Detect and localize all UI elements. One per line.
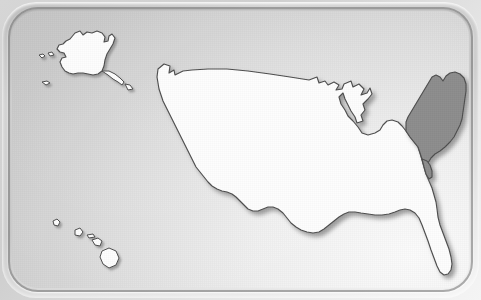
- plaque-inner-panel: [12, 11, 469, 288]
- hawaii-oahu[interactable]: [75, 228, 83, 236]
- hawaii-maui[interactable]: [92, 238, 102, 246]
- hawaii-kauai[interactable]: [53, 219, 60, 226]
- region-alaska[interactable]: [57, 31, 115, 75]
- aleutian-island-2: [48, 52, 54, 56]
- hawaii-molokai[interactable]: [87, 234, 95, 238]
- aleutian-island-3: [42, 81, 50, 85]
- hawaii-big-island[interactable]: [100, 248, 119, 268]
- region-contiguous-us[interactable]: [157, 64, 452, 275]
- aleutian-island-4: [125, 84, 133, 90]
- screenshot-root: [0, 0, 481, 300]
- alaska-panhandle: [102, 71, 124, 85]
- aleutian-island-1: [39, 54, 45, 58]
- plaque-outer-edge: [0, 0, 481, 300]
- us-map: [12, 11, 469, 288]
